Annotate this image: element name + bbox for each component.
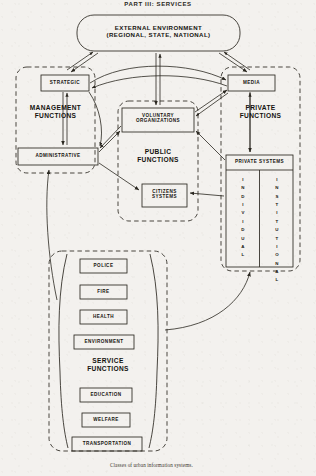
administrative-box-label[interactable]: ADMINISTRATIVE	[18, 153, 98, 158]
arrow-voluntary-administrative	[100, 126, 121, 148]
curve-service-private-systems	[165, 272, 250, 330]
service-bracket-right	[149, 254, 158, 448]
diagram-canvas: PART III: SERVICES	[0, 0, 316, 476]
private-systems-box-label[interactable]: PRIVATE SYSTEMS	[226, 159, 293, 164]
arrow-administrative-voluntary	[99, 131, 120, 152]
transportation-box-label[interactable]: TRANSPORTATION	[72, 441, 142, 446]
citizens-systems-box-label[interactable]: CITIZENS SYSTEMS	[142, 189, 187, 200]
health-box-label[interactable]: HEALTH	[80, 314, 127, 319]
figure-caption: Classes of urban information systems.	[110, 462, 193, 468]
police-box-label[interactable]: POLICE	[80, 263, 127, 268]
curve-media-strategic	[92, 76, 227, 88]
arrow-env-media	[219, 53, 247, 72]
arrow-env-strategic	[71, 53, 98, 72]
arrow-strategic-env	[67, 52, 93, 70]
voluntary-organizations-box-label[interactable]: VOLUNTARY ORGANIZATIONS	[122, 113, 194, 124]
fire-box-label[interactable]: FIRE	[80, 289, 127, 294]
environment-box-label[interactable]: ENVIRONMENT	[74, 339, 134, 344]
private-systems-column-institutional: INSTITUTIONAL	[261, 176, 293, 285]
curve-service-administrative	[47, 170, 57, 300]
public-functions-label: PUBLIC FUNCTIONS	[118, 148, 198, 164]
media-box-label[interactable]: MEDIA	[228, 80, 275, 85]
private-functions-label: PRIVATE FUNCTIONS	[221, 104, 300, 120]
welfare-box-label[interactable]: WELFARE	[82, 417, 130, 422]
arrow-private-systems-citizens	[190, 193, 224, 196]
arrow-media-env	[224, 52, 250, 70]
strategic-box-label[interactable]: STRATEGIC	[41, 80, 89, 85]
service-functions-label: SERVICE FUNCTIONS	[49, 357, 167, 373]
curve-strategic-media	[90, 66, 226, 83]
management-functions-label: MANAGEMENT FUNCTIONS	[16, 104, 95, 120]
external-environment-label: EXTERNAL ENVIRONMENT(REGIONAL, STATE, NA…	[77, 24, 240, 38]
private-systems-column-individual: INDIVIDUAL	[227, 176, 259, 260]
arrow-administrative-citizens	[99, 163, 139, 190]
service-bracket-left	[59, 254, 68, 448]
education-box-label[interactable]: EDUCATION	[80, 392, 132, 397]
